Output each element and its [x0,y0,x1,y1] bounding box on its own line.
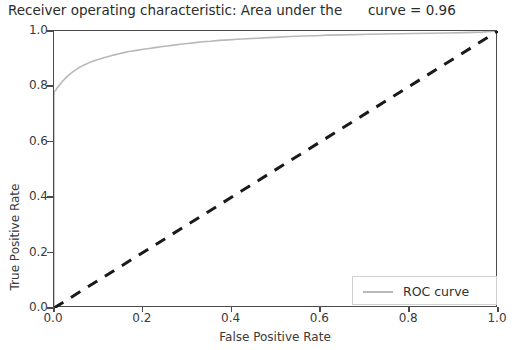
y-tick-mark [47,141,53,143]
x-tick-mark [319,307,321,312]
x-tick-mark [53,307,55,312]
x-tick-label: 1.0 [477,311,517,325]
legend-line-swatch-icon [363,291,393,293]
legend[interactable]: ROC curve [352,276,497,305]
y-axis-label: True Positive Rate [8,167,22,307]
roc-chart-figure: Receiver operating characteristic: Area … [0,0,517,350]
x-tick-label: 0.2 [122,311,162,325]
chance-diagonal-line [54,31,498,308]
y-axis-label-wrapper: True Positive Rate [0,100,18,240]
y-tick-label: 0.4 [20,189,48,203]
y-tick-mark [47,85,53,87]
x-tick-mark [497,307,499,312]
y-tick-mark [47,196,53,198]
plot-canvas [54,31,498,308]
x-tick-label: 0.8 [388,311,428,325]
chart-title: Receiver operating characteristic: Area … [8,2,513,18]
x-tick-label: 0.4 [211,311,251,325]
x-tick-label: 0.6 [299,311,339,325]
plot-area [53,30,497,307]
x-axis-label: False Positive Rate [53,330,497,344]
y-tick-label: 1.0 [20,23,48,37]
x-axis-tick-labels: 0.00.20.40.60.81.0 [53,311,497,329]
x-tick-mark [231,307,233,312]
y-tick-label: 0.2 [20,245,48,259]
x-tick-mark [142,307,144,312]
legend-item-label: ROC curve [403,284,469,299]
y-tick-label: 0.6 [20,134,48,148]
x-tick-label: 0.0 [33,311,73,325]
legend-item-roc-curve[interactable]: ROC curve [353,277,498,306]
y-tick-mark [47,252,53,254]
y-tick-mark [47,30,53,32]
x-tick-mark [408,307,410,312]
y-tick-label: 0.8 [20,78,48,92]
